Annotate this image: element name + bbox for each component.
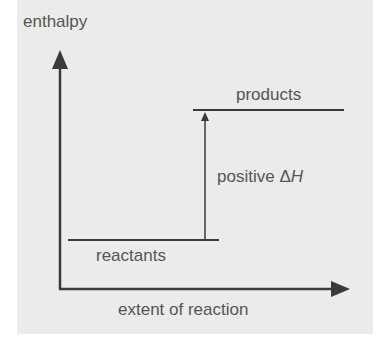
enthalpy-symbol: H [291, 167, 303, 186]
x-axis-arrowhead-icon [331, 281, 350, 297]
y-axis-arrowhead-icon [52, 50, 68, 69]
products-label: products [236, 86, 301, 103]
delta-symbol: Δ [279, 167, 290, 186]
x-axis-label: extent of reaction [118, 301, 248, 318]
delta-h-prefix: positive [217, 167, 279, 186]
delta-h-label: positive ΔH [217, 168, 303, 185]
enthalpy-diagram [0, 0, 383, 347]
reactants-label: reactants [96, 247, 166, 264]
y-axis-label: enthalpy [23, 13, 87, 30]
delta-h-arrowhead-icon [201, 112, 209, 121]
